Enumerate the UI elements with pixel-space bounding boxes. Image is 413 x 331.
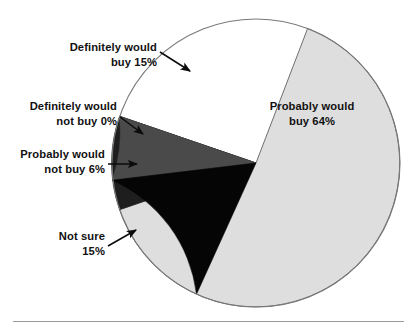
label-probably-would-buy-line1: Probably would xyxy=(270,100,355,112)
footer-rule xyxy=(13,321,404,322)
label-definitely-would-not-buy-line1: Definitely would xyxy=(30,100,117,112)
label-probably-would-not-buy-line1: Probably would xyxy=(20,148,105,160)
label-probably-would-not-buy-line2: not buy 6% xyxy=(44,163,105,175)
leader-line-definitely-would-buy xyxy=(160,52,190,71)
label-not-sure-line1: Not sure xyxy=(59,230,105,242)
pie-chart-canvas: Definitely would buy 15% Definitely woul… xyxy=(0,0,413,331)
label-definitely-would-buy-line1: Definitely would xyxy=(70,41,157,53)
leader-line-not-sure xyxy=(108,230,136,246)
pie-chart-figure: Definitely would buy 15% Definitely woul… xyxy=(0,0,413,331)
label-definitely-would-not-buy-line2: not buy 0% xyxy=(56,115,117,127)
label-definitely-would-buy-line2: buy 15% xyxy=(111,56,157,68)
label-probably-would-buy-line2: buy 64% xyxy=(289,115,335,127)
label-not-sure-line2: 15% xyxy=(82,245,105,257)
